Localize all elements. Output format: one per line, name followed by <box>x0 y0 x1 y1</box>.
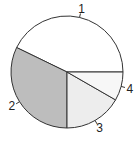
pie-label-3: 3 <box>96 121 103 135</box>
label-tick <box>121 86 125 87</box>
pie-label-4: 4 <box>126 82 133 96</box>
pie-chart: 1234 <box>0 0 138 141</box>
pie-label-1: 1 <box>78 2 85 16</box>
pie-slices <box>11 16 123 128</box>
pie-label-2: 2 <box>9 99 16 113</box>
label-tick <box>16 102 19 104</box>
